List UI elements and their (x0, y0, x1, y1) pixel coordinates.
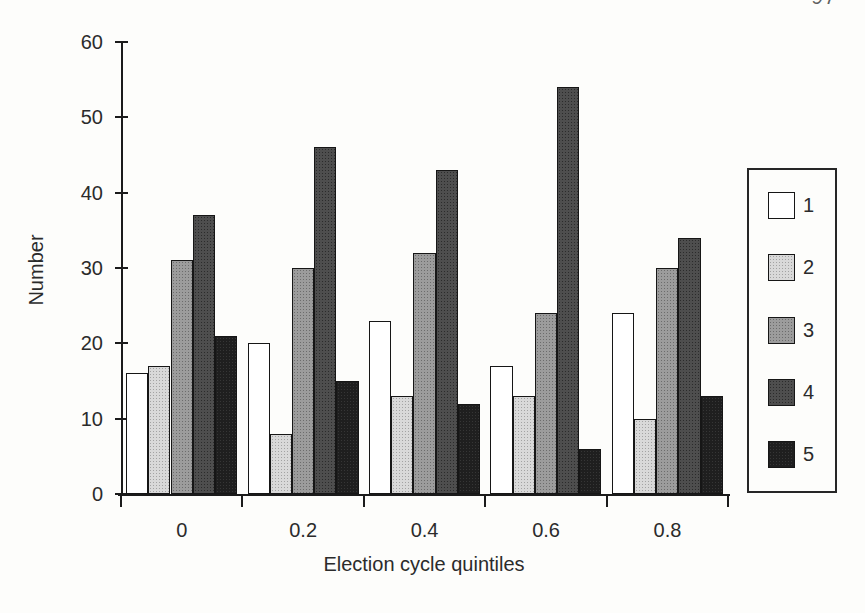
bar-series-2-group-0.6 (513, 396, 535, 494)
bar-chart: Number Election cycle quintiles 01020304… (0, 0, 865, 613)
legend-swatch-3 (768, 317, 795, 344)
bar-series-4-group-0.2 (314, 147, 336, 494)
x-axis-tick (484, 494, 486, 507)
y-axis-tick (115, 41, 128, 43)
y-axis-tick (115, 116, 128, 118)
bar-series-1-group-0 (126, 373, 148, 494)
bar-series-1-group-0.8 (612, 313, 634, 494)
x-tick-label: 0.4 (385, 519, 465, 541)
y-tick-label: 10 (44, 408, 103, 430)
bar-series-3-group-0.4 (413, 253, 435, 494)
y-tick-label: 60 (44, 31, 103, 53)
y-axis-tick (115, 267, 128, 269)
x-axis-tick (120, 494, 122, 507)
legend-label: 3 (803, 317, 833, 344)
y-axis-tick (115, 342, 128, 344)
x-axis-tick (363, 494, 365, 507)
legend-swatch-1 (768, 192, 795, 219)
legend: 12345 (747, 168, 837, 493)
bar-series-3-group-0.8 (656, 268, 678, 494)
bar-series-2-group-0.2 (270, 434, 292, 494)
legend-swatch-2 (768, 254, 795, 281)
x-tick-label: 0.2 (263, 519, 343, 541)
bar-series-1-group-0.2 (248, 343, 270, 494)
bar-series-4-group-0.6 (557, 87, 579, 494)
legend-swatch-4 (768, 379, 795, 406)
bar-series-5-group-0 (215, 336, 237, 494)
figure-page: 97 Number Election cycle quintiles 01020… (0, 0, 865, 613)
x-axis-tick (727, 494, 729, 507)
x-axis-title: Election cycle quintiles (323, 553, 524, 576)
bar-series-4-group-0 (193, 215, 215, 494)
x-tick-label: 0.8 (627, 519, 707, 541)
bar-series-5-group-0.6 (579, 449, 601, 494)
legend-label: 1 (803, 192, 833, 219)
bar-series-2-group-0.4 (391, 396, 413, 494)
y-tick-label: 30 (44, 257, 103, 279)
legend-label: 2 (803, 254, 833, 281)
x-axis-tick (606, 494, 608, 507)
legend-swatch-5 (768, 441, 795, 468)
x-axis-tick (241, 494, 243, 507)
bar-series-4-group-0.4 (436, 170, 458, 494)
bar-series-3-group-0.6 (535, 313, 557, 494)
y-tick-label: 0 (44, 483, 103, 505)
y-tick-label: 20 (44, 332, 103, 354)
bar-series-4-group-0.8 (678, 238, 700, 494)
legend-label: 5 (803, 441, 833, 468)
bar-series-3-group-0.2 (292, 268, 314, 494)
bar-series-1-group-0.4 (369, 321, 391, 494)
bar-series-2-group-0 (148, 366, 170, 494)
x-tick-label: 0.6 (506, 519, 586, 541)
bar-series-5-group-0.4 (458, 404, 480, 494)
x-axis-line (118, 494, 730, 496)
bar-series-1-group-0.6 (490, 366, 512, 494)
x-tick-label: 0 (142, 519, 222, 541)
y-axis-tick (115, 192, 128, 194)
y-axis-line (121, 42, 123, 496)
bar-series-2-group-0.8 (634, 419, 656, 494)
bar-series-3-group-0 (171, 260, 193, 494)
legend-label: 4 (803, 379, 833, 406)
y-tick-label: 40 (44, 182, 103, 204)
bar-series-5-group-0.8 (701, 396, 723, 494)
bar-series-5-group-0.2 (336, 381, 358, 494)
y-tick-label: 50 (44, 106, 103, 128)
